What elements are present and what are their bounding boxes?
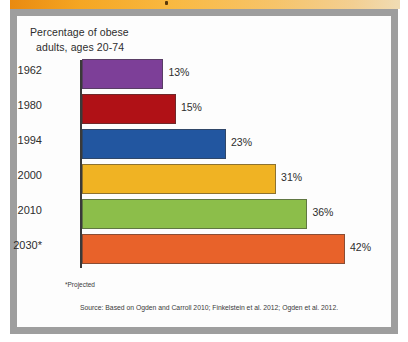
chart-title-line-2: adults, ages 20-74 xyxy=(36,41,124,53)
bar-1994 xyxy=(82,129,226,159)
bar-chart-plot-area: 196213%198015%199423%200031%201036%2030*… xyxy=(17,57,391,271)
bar-row: 196213% xyxy=(17,59,391,89)
bar-value-label: 31% xyxy=(281,171,302,183)
bar-row: 198015% xyxy=(17,94,391,124)
bar-1980 xyxy=(82,94,176,124)
bar-category-label: 1962 xyxy=(0,64,42,76)
bar-category-label: 1980 xyxy=(0,99,42,111)
bar-2010 xyxy=(82,199,307,229)
bar-row: 200031% xyxy=(17,164,391,194)
banner-marker-icon xyxy=(165,1,168,5)
bar-row: 2030*42% xyxy=(17,234,391,264)
chart-card-frame: Percentage of obese adults, ages 20-74 1… xyxy=(10,9,398,334)
bar-category-label: 2030* xyxy=(0,239,42,251)
bar-value-label: 42% xyxy=(350,241,371,253)
chart-card: Percentage of obese adults, ages 20-74 1… xyxy=(17,16,391,327)
bar-2030-projected xyxy=(82,234,345,264)
projected-footnote: *Projected xyxy=(65,281,95,288)
bar-2000 xyxy=(82,164,276,194)
bar-value-label: 36% xyxy=(312,206,333,218)
bar-category-label: 1994 xyxy=(0,134,42,146)
bar-value-label: 15% xyxy=(181,101,202,113)
chart-title-line-1: Percentage of obese xyxy=(30,26,129,38)
bar-value-label: 13% xyxy=(168,66,189,78)
bar-row: 201036% xyxy=(17,199,391,229)
bar-value-label: 23% xyxy=(231,136,252,148)
bar-category-label: 2000 xyxy=(0,169,42,181)
bar-1962 xyxy=(82,59,163,89)
source-citation: Source: Based on Ogden and Carroll 2010;… xyxy=(80,304,338,311)
bar-category-label: 2010 xyxy=(0,204,42,216)
top-orange-banner xyxy=(10,0,400,9)
chart-screenshot: Percentage of obese adults, ages 20-74 1… xyxy=(0,0,408,342)
bar-row: 199423% xyxy=(17,129,391,159)
